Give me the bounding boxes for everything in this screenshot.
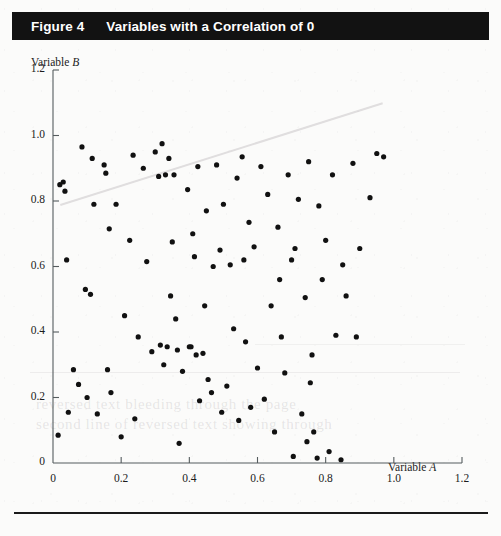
data-point (374, 151, 379, 156)
axis-ticks (53, 70, 462, 463)
data-point (221, 202, 226, 207)
data-point (79, 144, 84, 149)
data-point (217, 248, 222, 253)
data-point (90, 156, 95, 161)
data-point (202, 303, 207, 308)
y-tick-label: 0.2 (19, 390, 45, 402)
data-point (103, 171, 108, 176)
data-point (188, 344, 193, 349)
data-point (214, 162, 219, 167)
x-tick-label: 0 (40, 472, 66, 484)
data-point (66, 410, 71, 415)
data-point (205, 377, 210, 382)
data-point (265, 192, 270, 197)
data-point (195, 164, 200, 169)
data-point (323, 238, 328, 243)
data-point (320, 277, 325, 282)
y-tick-label: 1.2 (19, 62, 45, 74)
data-point (251, 244, 256, 249)
data-point (166, 156, 171, 161)
x-tick-label: 1.2 (449, 472, 475, 484)
data-point (240, 154, 245, 159)
figure-title: Variables with a Correlation of 0 (106, 19, 314, 34)
x-tick-label: 1.0 (381, 472, 407, 484)
data-point (248, 405, 253, 410)
data-point (177, 441, 182, 446)
data-point (315, 455, 320, 460)
data-point (64, 257, 69, 262)
data-point (211, 264, 216, 269)
data-point (131, 153, 136, 158)
data-point (95, 411, 100, 416)
x-tick-label: 0.2 (108, 472, 134, 484)
data-point (61, 179, 66, 184)
data-point (88, 292, 93, 297)
data-point (299, 411, 304, 416)
data-point (231, 326, 236, 331)
data-point (255, 365, 260, 370)
data-point (197, 398, 202, 403)
data-point (71, 367, 76, 372)
data-point (258, 164, 263, 169)
data-point (170, 239, 175, 244)
figure-bottom-rule (14, 512, 488, 514)
figure-page: Figure 4 Variables with a Correlation of… (0, 0, 501, 536)
data-point (76, 382, 81, 387)
data-point (107, 226, 112, 231)
data-point (168, 293, 173, 298)
data-point (108, 390, 113, 395)
data-point (277, 277, 282, 282)
data-point (91, 202, 96, 207)
data-point (340, 262, 345, 267)
data-point (161, 362, 166, 367)
plot-canvas (0, 44, 501, 506)
data-point (326, 449, 331, 454)
y-tick-label: 0.8 (19, 193, 45, 205)
data-point (113, 202, 118, 207)
data-point (303, 295, 308, 300)
data-point (173, 316, 178, 321)
data-point (163, 172, 168, 177)
data-point (159, 141, 164, 146)
data-point (311, 429, 316, 434)
data-point (165, 344, 170, 349)
data-point (350, 161, 355, 166)
data-point (105, 367, 110, 372)
data-point (367, 195, 372, 200)
data-point (141, 166, 146, 171)
x-tick-label: 0.6 (245, 472, 271, 484)
x-tick-label: 0.4 (176, 472, 202, 484)
x-tick-label: 0.8 (313, 472, 339, 484)
data-point (272, 429, 277, 434)
data-point (156, 174, 161, 179)
data-point (381, 154, 386, 159)
data-point (262, 397, 267, 402)
data-point (291, 454, 296, 459)
data-point (219, 410, 224, 415)
data-point (62, 189, 67, 194)
figure-number: Figure 4 (31, 19, 84, 34)
data-point (344, 293, 349, 298)
data-point (153, 149, 158, 154)
data-point (56, 433, 61, 438)
y-tick-label: 0 (19, 455, 45, 467)
data-point (83, 287, 88, 292)
data-point (354, 334, 359, 339)
data-point (309, 352, 314, 357)
data-point (132, 416, 137, 421)
data-point (304, 439, 309, 444)
data-point (204, 208, 209, 213)
data-point (209, 390, 214, 395)
scatter-chart: reversed text bleeding through the page … (0, 44, 501, 506)
data-point (144, 259, 149, 264)
data-point (279, 334, 284, 339)
data-point (119, 434, 124, 439)
y-tick-label: 1.0 (19, 128, 45, 140)
data-point (275, 225, 280, 230)
y-tick-label: 0.6 (19, 259, 45, 271)
data-point (333, 333, 338, 338)
data-point (175, 347, 180, 352)
data-point (149, 349, 154, 354)
data-points (56, 141, 387, 462)
data-point (171, 172, 176, 177)
